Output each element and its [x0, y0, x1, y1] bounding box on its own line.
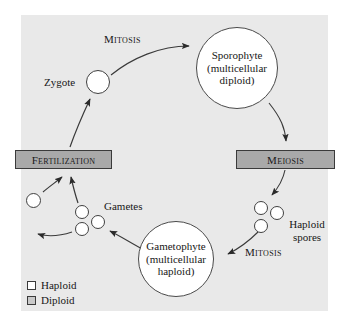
gametophyte-label-line2: (multicellular [146, 253, 206, 266]
arrow-gametes-to-fertilization [71, 177, 78, 203]
haploid-spores-label: Haploid spores [283, 218, 331, 243]
mitosis-top-label: Mitosis [104, 33, 141, 46]
haploid-spore-cell[interactable] [270, 206, 284, 220]
sporophyte-label-line2: (multicellular [207, 62, 267, 75]
sporophyte-label-line1: Sporophyte [212, 49, 263, 62]
gametophyte-circle[interactable]: Gametophyte (multicellular haploid) [138, 221, 214, 297]
arrow-fertilization-to-zygote [70, 99, 90, 147]
sporophyte-label-line3: diploid) [220, 74, 255, 87]
legend-label-haploid: Haploid [41, 279, 76, 291]
legend-item-diploid: Diploid [27, 293, 76, 307]
gamete-cell[interactable] [75, 222, 89, 236]
haploid-swatch-icon [27, 281, 36, 290]
arrow-gamete-to-fertilization [43, 177, 62, 192]
legend: Haploid Diploid [27, 278, 76, 308]
gamete-cell[interactable] [91, 215, 105, 229]
gametophyte-label-line3: haploid) [158, 265, 195, 278]
arrow-meiosis-to-spores [272, 170, 285, 195]
zygote-cell[interactable] [86, 70, 110, 94]
zygote-label: Zygote [44, 76, 75, 89]
meiosis-label: Meiosis [267, 154, 304, 166]
fertilization-label: Fertilization [32, 154, 96, 166]
haploid-spore-cell[interactable] [254, 201, 268, 215]
sporophyte-circle[interactable]: Sporophyte (multicellular diploid) [196, 27, 278, 109]
life-cycle-diagram: Fertilization Meiosis Sporophyte (multic… [0, 0, 350, 330]
process-box-fertilization[interactable]: Fertilization [15, 150, 112, 169]
gamete-cell-free[interactable] [26, 193, 41, 208]
legend-label-diploid: Diploid [41, 294, 75, 306]
haploid-spore-cell[interactable] [254, 219, 268, 233]
gamete-cell[interactable] [75, 205, 89, 219]
arrow-zygote-to-sporophyte [111, 46, 189, 75]
arrow-gametes-dispersal [38, 232, 72, 236]
legend-item-haploid: Haploid [27, 278, 76, 292]
mitosis-bottom-label: Mitosis [245, 246, 282, 259]
diploid-swatch-icon [27, 296, 36, 305]
gametes-label: Gametes [104, 200, 142, 213]
gametophyte-label-line1: Gametophyte [146, 240, 205, 253]
process-box-meiosis[interactable]: Meiosis [236, 150, 335, 169]
arrow-sporophyte-to-meiosis [269, 103, 286, 141]
